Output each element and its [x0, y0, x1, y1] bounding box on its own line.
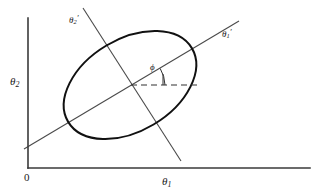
covariance-ellipse — [45, 9, 216, 162]
theta-1-prime-label-prime: ′ — [230, 27, 232, 37]
theta-2-axis-label: θ2 — [10, 76, 19, 89]
theta-2-prime-axis-label: θ2′ — [69, 14, 79, 26]
theta-1-axis-label: θ1 — [162, 176, 171, 189]
theta-1-prime-axis-label: θ1′ — [222, 28, 232, 40]
figure-container: θ2 θ1 0 θ1′ θ2′ ϕ — [0, 0, 321, 195]
phi-angle-label: ϕ — [150, 63, 155, 72]
figure-canvas — [0, 0, 321, 195]
theta-2-prime-label-prime: ′ — [77, 13, 79, 23]
theta-2-axis-label-subscript: 2 — [15, 80, 19, 89]
theta-1-axis-label-subscript: 1 — [167, 180, 171, 189]
origin-label: 0 — [24, 172, 30, 183]
